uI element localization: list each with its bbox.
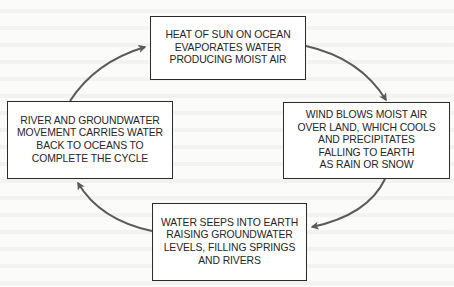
step-box-infiltration: WATER SEEPS INTO EARTH RAISING GROUNDWAT… (152, 203, 307, 281)
arrow-runoff-to-evaporation (70, 47, 145, 101)
step-text-infiltration: WATER SEEPS INTO EARTH RAISING GROUNDWAT… (161, 217, 298, 267)
arrow-infiltration-to-runoff (78, 183, 152, 231)
step-box-precipitation: WIND BLOWS MOIST AIR OVER LAND, WHICH CO… (283, 102, 450, 179)
step-text-runoff: RIVER AND GROUNDWATER MOVEMENT CARRIES W… (17, 115, 163, 165)
arrow-precipitation-to-infiltration (312, 179, 385, 227)
arrow-evaporation-to-precipitation (306, 46, 386, 100)
step-box-evaporation: HEAT OF SUN ON OCEAN EVAPORATES WATER PR… (150, 16, 306, 80)
step-text-precipitation: WIND BLOWS MOIST AIR OVER LAND, WHICH CO… (297, 109, 435, 172)
step-text-evaporation: HEAT OF SUN ON OCEAN EVAPORATES WATER PR… (165, 29, 290, 67)
step-box-runoff: RIVER AND GROUNDWATER MOVEMENT CARRIES W… (7, 101, 173, 179)
